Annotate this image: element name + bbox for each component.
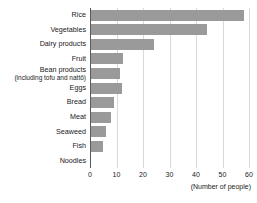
plot-area — [90, 8, 249, 168]
y-axis-label: Eggs — [0, 84, 86, 92]
bar — [90, 97, 114, 108]
y-axis-label: Noodles — [0, 157, 86, 165]
y-axis-label: Fruit — [0, 55, 86, 63]
x-axis-tick-label: 10 — [113, 170, 121, 179]
x-axis-ticks: 0102030405060 — [90, 170, 249, 182]
y-axis-label-text: Meat — [70, 112, 86, 121]
bar — [90, 10, 244, 21]
y-axis-labels: RiceVegetablesDairy productsFruitBean pr… — [0, 8, 86, 168]
bar — [90, 24, 207, 35]
bar-row — [90, 139, 249, 154]
y-axis-label-text: Dairy products — [40, 39, 86, 48]
y-axis-label-text: Fruit — [72, 54, 86, 63]
x-axis-tick-label: 30 — [166, 170, 174, 179]
y-axis-label: Fish — [0, 142, 86, 150]
y-axis-label: Vegetables — [0, 26, 86, 34]
bar — [90, 141, 103, 152]
bar-row — [90, 52, 249, 67]
y-axis-label-sublabel: (including tofu and nattō) — [0, 74, 86, 82]
x-axis-caption: (Number of people) — [191, 182, 251, 191]
bar-row — [90, 124, 249, 139]
x-axis-tick-label: 0 — [88, 170, 92, 179]
bar — [90, 112, 111, 123]
bar-chart: RiceVegetablesDairy productsFruitBean pr… — [0, 0, 257, 203]
x-axis-tick-label: 20 — [139, 170, 147, 179]
x-axis-tick-label: 50 — [219, 170, 227, 179]
bar-rows — [90, 8, 249, 168]
y-axis-label: Seaweed — [0, 128, 86, 136]
bar — [90, 83, 122, 94]
bar-row — [90, 37, 249, 52]
y-axis-label-text: Seaweed — [56, 127, 86, 136]
bar-row — [90, 153, 249, 168]
y-axis-label-text: Vegetables — [50, 25, 86, 34]
bar-row — [90, 8, 249, 23]
y-axis-label-text: Bean products — [40, 65, 86, 74]
bar-row — [90, 81, 249, 96]
bar — [90, 126, 106, 137]
gridline — [249, 8, 250, 168]
bar-row — [90, 23, 249, 38]
bar-row — [90, 110, 249, 125]
y-axis-label-text: Bread — [67, 97, 86, 106]
y-axis-label: Rice — [0, 11, 86, 19]
x-axis-tick-label: 40 — [192, 170, 200, 179]
bar-row — [90, 95, 249, 110]
y-axis-label: Dairy products — [0, 40, 86, 48]
x-axis-tick-label: 60 — [245, 170, 253, 179]
y-axis-label-text: Rice — [72, 10, 86, 19]
bar-row — [90, 66, 249, 81]
y-axis-line — [90, 8, 91, 168]
y-axis-label: Meat — [0, 113, 86, 121]
y-axis-label-text: Noodles — [60, 156, 86, 165]
y-axis-label: Bean products(including tofu and nattō) — [0, 66, 86, 82]
y-axis-label: Bread — [0, 98, 86, 106]
bar — [90, 39, 154, 50]
bar — [90, 53, 123, 64]
y-axis-label-text: Eggs — [70, 83, 86, 92]
y-axis-label-text: Fish — [72, 141, 86, 150]
bar — [90, 68, 120, 79]
